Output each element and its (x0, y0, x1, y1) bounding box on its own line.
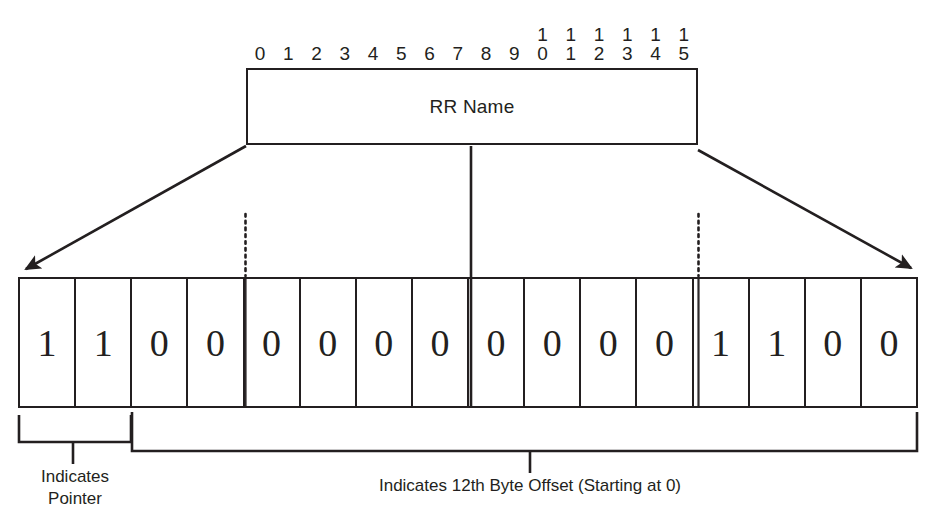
bit-cell-15: 0 (862, 279, 916, 406)
ruler-tick-14-high: 1 (650, 25, 661, 45)
ruler-tick-10-low: 0 (537, 44, 548, 64)
pointer-annotation-line-2: Pointer (0, 488, 150, 510)
ruler-tick-11-low: 1 (566, 44, 577, 64)
pointer-annotation: Indicates Pointer (0, 466, 150, 510)
ruler-tick-13: 13 (613, 8, 641, 64)
ruler-tick-4: 4 (359, 8, 387, 64)
offset-bracket (132, 412, 917, 451)
bit-index-ruler: 0 1 2 3 4 5 6 7 8 9 10 11 12 13 14 15 (246, 8, 698, 64)
ruler-tick-9-low: 9 (509, 44, 520, 64)
ruler-tick-13-low: 3 (622, 44, 633, 64)
ruler-tick-1-low: 1 (283, 44, 294, 64)
bit-cell-11: 0 (637, 279, 693, 406)
bit-value-0: 1 (38, 324, 57, 362)
ruler-tick-15-low: 5 (679, 44, 690, 64)
bit-value-7: 0 (430, 324, 449, 362)
bit-cell-14: 0 (806, 279, 862, 406)
bit-cell-1: 1 (76, 279, 132, 406)
bit-value-5: 0 (318, 324, 337, 362)
ruler-tick-7-low: 7 (453, 44, 464, 64)
ruler-tick-0-low: 0 (255, 44, 266, 64)
bit-value-14: 0 (823, 324, 842, 362)
ruler-tick-15: 15 (670, 8, 698, 64)
bit-cell-5: 0 (301, 279, 357, 406)
ruler-tick-2: 2 (303, 8, 331, 64)
bit-row: 1 1 0 0 0 0 0 0 0 0 0 0 1 1 0 0 (18, 277, 918, 408)
offset-annotation: Indicates 12th Byte Offset (Starting at … (330, 475, 730, 497)
bit-cell-10: 0 (581, 279, 637, 406)
ruler-tick-15-high: 1 (679, 25, 690, 45)
ruler-tick-0: 0 (246, 8, 274, 64)
bit-cell-6: 0 (357, 279, 413, 406)
bit-value-2: 0 (150, 324, 169, 362)
bit-value-13: 1 (767, 324, 786, 362)
ruler-tick-12-low: 2 (594, 44, 605, 64)
diagram-canvas: 0 1 2 3 4 5 6 7 8 9 10 11 12 13 14 15 RR… (0, 0, 931, 528)
bit-cell-12: 1 (694, 279, 750, 406)
ruler-tick-6-low: 6 (424, 44, 435, 64)
rr-name-field-box: RR Name (246, 68, 698, 145)
bit-value-3: 0 (206, 324, 225, 362)
bit-value-4: 0 (262, 324, 281, 362)
ruler-tick-8-low: 8 (481, 44, 492, 64)
ruler-tick-12: 12 (585, 8, 613, 64)
bit-value-15: 0 (879, 324, 898, 362)
ruler-tick-11-high: 1 (566, 25, 577, 45)
ruler-tick-2-low: 2 (311, 44, 322, 64)
bit-cell-3: 0 (188, 279, 244, 406)
bit-cell-9: 0 (525, 279, 581, 406)
ruler-tick-4-low: 4 (368, 44, 379, 64)
bit-cell-7: 0 (413, 279, 469, 406)
ruler-tick-13-high: 1 (622, 25, 633, 45)
ruler-tick-6: 6 (416, 8, 444, 64)
bit-cell-8: 0 (469, 279, 525, 406)
ruler-tick-1: 1 (274, 8, 302, 64)
pointer-annotation-line-1: Indicates (0, 466, 150, 488)
bit-value-1: 1 (94, 324, 113, 362)
ruler-tick-9: 9 (500, 8, 528, 64)
ruler-tick-5-low: 5 (396, 44, 407, 64)
bit-value-6: 0 (374, 324, 393, 362)
bit-value-11: 0 (655, 324, 674, 362)
bit-cell-0: 1 (20, 279, 76, 406)
pointer-bracket (19, 415, 131, 442)
ruler-tick-12-high: 1 (594, 25, 605, 45)
ruler-tick-8: 8 (472, 8, 500, 64)
left-expansion-arrow-icon (26, 146, 246, 269)
bit-cell-4: 0 (245, 279, 301, 406)
bit-value-8: 0 (487, 324, 506, 362)
right-expansion-arrow-icon (698, 150, 911, 268)
ruler-tick-10-high: 1 (537, 25, 548, 45)
bit-value-9: 0 (543, 324, 562, 362)
bit-cell-2: 0 (132, 279, 188, 406)
ruler-tick-3: 3 (331, 8, 359, 64)
ruler-tick-5: 5 (387, 8, 415, 64)
ruler-tick-10: 10 (529, 8, 557, 64)
ruler-tick-14: 14 (642, 8, 670, 64)
ruler-tick-7: 7 (444, 8, 472, 64)
ruler-tick-11: 11 (557, 8, 585, 64)
ruler-tick-3-low: 3 (340, 44, 351, 64)
bit-value-12: 1 (711, 324, 730, 362)
bit-cell-13: 1 (750, 279, 806, 406)
rr-name-label: RR Name (430, 96, 515, 118)
bit-value-10: 0 (599, 324, 618, 362)
ruler-tick-14-low: 4 (650, 44, 661, 64)
